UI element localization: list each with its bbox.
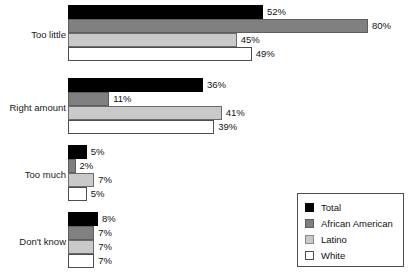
bar	[68, 92, 109, 106]
bar	[68, 254, 94, 268]
bar-value-label: 49%	[256, 48, 275, 59]
bar-value-label: 41%	[226, 107, 245, 118]
bar-value-label: 5%	[91, 146, 105, 157]
legend-item[interactable]: Latino	[305, 231, 403, 247]
bar	[68, 106, 222, 120]
legend-item[interactable]: Total	[305, 199, 403, 215]
bar	[68, 78, 203, 92]
bar-value-label: 2%	[80, 160, 94, 171]
bar-value-label: 8%	[102, 213, 116, 224]
bar	[68, 120, 214, 134]
chart-title-clipped	[0, 0, 408, 2]
legend-swatch-icon	[305, 219, 314, 228]
legend-label: Total	[321, 202, 341, 213]
bar-value-label: 7%	[98, 255, 112, 266]
category-label: Don't know	[0, 236, 66, 247]
legend-swatch-icon	[305, 203, 314, 212]
bar-value-label: 7%	[98, 241, 112, 252]
bar	[68, 240, 94, 254]
legend-item[interactable]: White	[305, 247, 403, 263]
bar-value-label: 7%	[98, 227, 112, 238]
legend-label: African American	[321, 218, 393, 229]
category-label: Right amount	[0, 102, 66, 113]
bar	[68, 159, 76, 173]
legend-swatch-icon	[305, 251, 314, 260]
category-label: Too much	[0, 169, 66, 180]
bar-value-label: 7%	[98, 174, 112, 185]
bar-value-label: 5%	[91, 188, 105, 199]
bar-value-label: 45%	[241, 34, 260, 45]
bar-chart: Too little52%80%45%49%Right amount36%11%…	[0, 0, 408, 278]
legend-label: Latino	[321, 234, 347, 245]
chart-legend: TotalAfrican AmericanLatinoWhite	[297, 193, 404, 267]
bar	[68, 226, 94, 240]
bar-value-label: 39%	[218, 121, 237, 132]
category-label: Too little	[0, 29, 66, 40]
legend-swatch-icon	[305, 235, 314, 244]
legend-label: White	[321, 250, 345, 261]
bar	[68, 19, 368, 33]
bar	[68, 173, 94, 187]
legend-item[interactable]: African American	[305, 215, 403, 231]
bar-value-label: 11%	[113, 93, 131, 104]
bar	[68, 33, 237, 47]
bar	[68, 5, 263, 19]
bar	[68, 47, 252, 61]
bar	[68, 187, 87, 201]
bar	[68, 212, 98, 226]
bar-value-label: 52%	[267, 6, 286, 17]
bar-value-label: 36%	[207, 79, 226, 90]
bar-value-label: 80%	[372, 20, 391, 31]
bar	[68, 145, 87, 159]
